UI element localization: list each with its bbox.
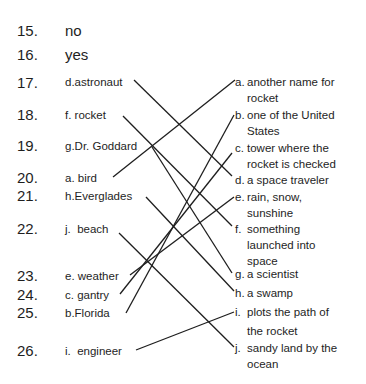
- line-bird-a: [113, 80, 235, 177]
- line-gantry-c: [120, 153, 232, 294]
- line-florida-b: [126, 115, 234, 313]
- line-weather-e: [130, 197, 234, 275]
- line-engineer-i: [136, 312, 234, 350]
- line-rocket-f: [123, 116, 232, 226]
- matching-lines: [0, 0, 366, 384]
- line-goddard-g: [152, 147, 232, 273]
